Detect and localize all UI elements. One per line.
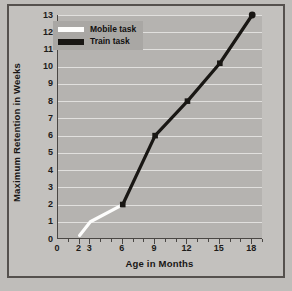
y-axis-tick-label: 0 <box>31 235 53 244</box>
data-point-marker <box>249 12 256 19</box>
y-axis-tick-label: 12 <box>31 28 53 37</box>
x-axis-tick-label: 15 <box>214 243 224 253</box>
legend-item-mobile-task: Mobile task <box>58 25 136 34</box>
x-axis-minor-tick <box>68 239 69 242</box>
x-axis-minor-tick <box>133 239 134 242</box>
x-axis-tick-label: 0 <box>54 243 59 253</box>
data-point-marker <box>185 98 191 104</box>
chart-figure: Maximum Retention in Weeks 0123456789101… <box>0 0 292 291</box>
x-axis-minor-tick <box>208 239 209 242</box>
x-axis-minor-tick <box>111 239 112 242</box>
x-axis-title: Age in Months <box>57 258 262 269</box>
x-axis-minor-tick <box>230 239 231 242</box>
x-axis-minor-tick <box>240 239 241 242</box>
data-point-marker <box>217 60 223 66</box>
y-axis-tick-labels: 012345678910111213 <box>29 0 53 291</box>
x-axis-tick-label: 9 <box>152 243 157 253</box>
y-axis-tick-label: 13 <box>31 11 53 20</box>
y-axis-tick-label: 5 <box>31 148 53 157</box>
y-axis-tick-label: 7 <box>31 114 53 123</box>
x-axis-tick-label: 2 <box>76 243 81 253</box>
x-axis-minor-tick <box>176 239 177 242</box>
x-axis-tick-label: 12 <box>181 243 191 253</box>
y-axis-tick-label: 9 <box>31 79 53 88</box>
data-point-marker <box>152 133 158 139</box>
x-axis-tick-label: 3 <box>87 243 92 253</box>
y-axis-tick-label: 4 <box>31 166 53 175</box>
x-axis-minor-tick <box>143 239 144 242</box>
y-axis-tick-label: 11 <box>31 45 53 54</box>
y-axis-tick-label: 1 <box>31 217 53 226</box>
legend-label-mobile-task: Mobile task <box>90 25 136 34</box>
chart-legend: Mobile task Train task <box>53 21 143 50</box>
y-axis-tick-label: 2 <box>31 200 53 209</box>
y-axis-tick-label: 10 <box>31 62 53 71</box>
x-axis-tick-label: 18 <box>246 243 256 253</box>
legend-swatch-mobile-task-icon <box>58 27 84 32</box>
y-axis-title: Maximum Retention in Weeks <box>11 33 22 233</box>
y-axis-tick-label: 8 <box>31 97 53 106</box>
legend-label-train-task: Train task <box>90 37 130 46</box>
x-axis-minor-tick <box>100 239 101 242</box>
x-axis-minor-tick <box>197 239 198 242</box>
x-axis-tick-label: 6 <box>119 243 124 253</box>
series-line <box>80 205 123 236</box>
x-axis-minor-tick <box>165 239 166 242</box>
data-point-marker <box>120 202 126 208</box>
x-axis-minor-tick <box>262 239 263 242</box>
y-axis-tick-label: 3 <box>31 183 53 192</box>
legend-swatch-train-task-icon <box>58 39 84 45</box>
y-axis-tick-label: 6 <box>31 131 53 140</box>
legend-item-train-task: Train task <box>58 37 136 46</box>
